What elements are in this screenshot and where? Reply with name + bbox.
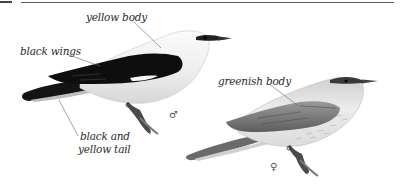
female-symbol: ♀: [270, 162, 277, 172]
leader-tail: [59, 100, 78, 136]
birds-artwork: [0, 0, 401, 192]
female-bird: [186, 77, 378, 176]
label-black-wings: black wings: [20, 45, 81, 57]
bird-illustration: yellow body black wings black and yellow…: [0, 0, 401, 192]
male-symbol: ♂: [169, 110, 178, 120]
label-greenish-body: greenish body: [218, 75, 291, 87]
label-yellow-body: yellow body: [86, 11, 147, 23]
label-tail-line2: yellow tail: [78, 143, 131, 155]
label-tail-line1: black and: [80, 130, 130, 142]
